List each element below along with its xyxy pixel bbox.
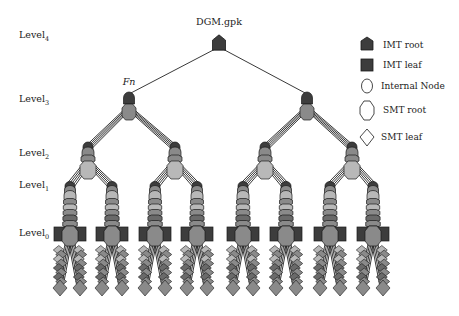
tree-nodes: [53, 35, 390, 296]
level-3-label: Level3: [19, 93, 49, 107]
level0-smt-root: [104, 226, 120, 246]
level2-smt-root: [167, 161, 183, 179]
legend-label-smt-root: SMT root: [383, 105, 426, 115]
smt-root-icon: [360, 101, 374, 120]
dgm-root-node: [213, 35, 226, 50]
imt-leaf-icon: [361, 59, 373, 71]
root-label: DGM.gpk: [196, 16, 242, 27]
legend: IMT root IMT leaf Internal Node SMT root…: [360, 37, 445, 146]
legend-label-imt-leaf: IMT leaf: [383, 60, 422, 70]
dgm-tree-diagram: Level4 Level3 Level2 Level1 Level0 DGM.g…: [0, 0, 459, 316]
level0-smt-root: [365, 226, 381, 246]
level3-smt-root: [122, 104, 136, 120]
fn-label: Fn: [122, 76, 136, 87]
edge-root-to-level3: [129, 47, 219, 94]
edge-level3-to-level2: [309, 108, 355, 148]
edge-level3-to-level2: [261, 108, 304, 148]
level3-imt-root: [124, 92, 135, 104]
legend-label-imt-root: IMT root: [383, 40, 424, 50]
level-4-label: Level4: [19, 29, 49, 43]
level3-imt-root: [302, 92, 313, 104]
level3-smt-root: [300, 104, 314, 120]
legend-item-smt-root: SMT root: [360, 101, 426, 120]
level2-smt-root: [257, 161, 273, 179]
level2-smt-root: [344, 161, 360, 179]
legend-item-internal-node: Internal Node: [362, 79, 445, 93]
legend-label-smt-leaf: SMT leaf: [381, 132, 423, 142]
level0-smt-root: [189, 226, 205, 246]
smt-leaf-icon: [360, 129, 374, 146]
edge-level3-to-level2: [132, 108, 179, 148]
legend-item-smt-leaf: SMT leaf: [360, 129, 423, 146]
level0-smt-root: [62, 226, 78, 246]
edge-root-to-level3: [219, 47, 307, 94]
level0-smt-root: [235, 226, 251, 246]
edge-level3-to-level2: [310, 108, 356, 148]
level-2-label: Level2: [19, 147, 49, 161]
level-1-label: Level1: [19, 179, 49, 193]
level0-smt-root: [278, 226, 294, 246]
legend-item-imt-root: IMT root: [361, 37, 424, 50]
level-0-label: Level0: [19, 227, 49, 241]
level0-smt-root: [322, 226, 338, 246]
edge-level3-to-level2: [131, 108, 178, 148]
legend-item-imt-leaf: IMT leaf: [361, 59, 422, 71]
level0-smt-root: [147, 226, 163, 246]
legend-label-internal-node: Internal Node: [381, 81, 445, 91]
edge-level3-to-level2: [263, 108, 306, 148]
edge-level3-to-level2: [86, 108, 128, 148]
internal-node-icon: [362, 79, 373, 93]
level2-smt-root: [80, 161, 96, 179]
imt-root-icon: [361, 37, 373, 50]
